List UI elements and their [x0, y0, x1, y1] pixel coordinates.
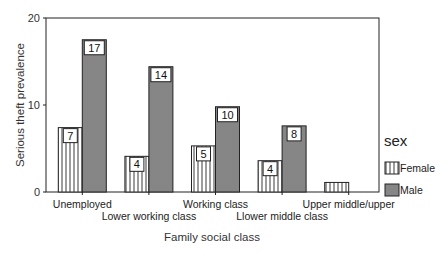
legend-swatch-female: [385, 162, 399, 174]
bars: 71741451048: [58, 40, 348, 195]
bar-value-label: 14: [155, 69, 167, 81]
bar-value-label: 10: [221, 109, 233, 121]
y-tick-label: 0: [34, 186, 40, 198]
bar-female: 4: [125, 156, 149, 192]
legend-title: sex: [384, 132, 408, 149]
bar-male: 17: [82, 40, 106, 192]
x-category-label: Upper middle/upper: [303, 198, 396, 210]
y-tick-label: 20: [28, 12, 40, 24]
bar-female: 7: [58, 128, 82, 192]
x-category-label: Unemployed: [53, 198, 112, 210]
y-tick-label: 10: [28, 99, 40, 111]
x-category-label: Lower working class: [102, 210, 197, 222]
y-axis: 01020: [28, 12, 46, 198]
bar-value-label: 4: [134, 158, 140, 170]
x-axis-label: Family social class: [164, 231, 260, 243]
bar-value-label: 17: [88, 42, 100, 54]
bar-male: 14: [149, 67, 173, 192]
legend-label-female: Female: [400, 162, 435, 174]
bar-value-label: 4: [267, 163, 273, 175]
bar-value-label: 5: [200, 148, 206, 160]
x-category-label: Working class: [183, 198, 248, 210]
x-category-label: Llower middle class: [236, 210, 328, 222]
bar-female: 4: [258, 161, 282, 192]
legend: sexFemaleMale: [384, 132, 435, 196]
bar-male: 8: [282, 126, 306, 192]
bar-value-label: 7: [67, 130, 73, 142]
bar-female: [325, 182, 349, 192]
legend-label-male: Male: [400, 184, 423, 196]
bar-chart: 01020 71741451048 UnemployedLower workin…: [0, 0, 447, 254]
bar-value-label: 8: [291, 128, 297, 140]
bar-female: 5: [192, 146, 216, 192]
y-axis-label: Serious theft prevalence: [14, 43, 26, 167]
legend-swatch-male: [385, 184, 399, 196]
x-axis-categories: UnemployedLower working classWorking cla…: [53, 198, 395, 222]
bar-male: 10: [216, 107, 240, 192]
